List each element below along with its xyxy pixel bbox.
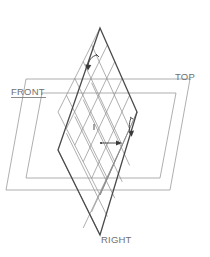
label-top: TOP (175, 71, 195, 82)
label-top-text: TOP (175, 71, 195, 82)
axonometric-diagram: FRONT TOP RIGHT (0, 0, 210, 257)
label-right: RIGHT (101, 234, 132, 245)
diagram-canvas: FRONT TOP RIGHT (0, 0, 210, 257)
label-front: FRONT (11, 86, 46, 98)
label-front-text: FRONT (11, 86, 45, 97)
label-right-text: RIGHT (101, 234, 132, 245)
rhombus-grid (58, 28, 137, 235)
